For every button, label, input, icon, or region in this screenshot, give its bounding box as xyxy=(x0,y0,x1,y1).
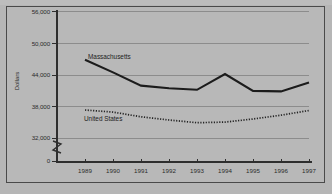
x-tick-label: 1994 xyxy=(218,167,232,174)
gridline xyxy=(57,138,309,139)
x-tick-label: 1993 xyxy=(190,167,204,174)
y-tick-label: 56,000 xyxy=(2,8,50,15)
y-tick-label: 50,000 xyxy=(2,40,50,47)
x-axis-line xyxy=(56,161,312,163)
y-tick-label: 44,000 xyxy=(2,71,50,78)
y-axis-line xyxy=(56,10,58,162)
x-tick-label: 1997 xyxy=(302,167,316,174)
x-tick-mark xyxy=(225,159,226,163)
x-tick-label: 1996 xyxy=(274,167,288,174)
x-tick-mark xyxy=(281,159,282,163)
series-annotation-united-states: United States xyxy=(84,115,122,122)
x-tick-mark xyxy=(113,159,114,163)
gridline xyxy=(57,11,309,12)
y-tick-label: 38,000 xyxy=(2,103,50,110)
gridline xyxy=(57,106,309,107)
x-tick-label: 1990 xyxy=(106,167,120,174)
x-tick-mark xyxy=(253,159,254,163)
x-tick-mark xyxy=(309,159,310,163)
x-tick-mark xyxy=(141,159,142,163)
x-tick-label: 1991 xyxy=(134,167,148,174)
plot-area xyxy=(57,11,309,162)
y-tick-label-zero: 0 xyxy=(2,157,50,164)
x-tick-mark xyxy=(85,159,86,163)
x-tick-label: 1992 xyxy=(162,167,176,174)
series-annotation-massachusetts: Massachusetts xyxy=(88,53,131,60)
chart-figure: 56,000 50,000 44,000 38,000 32,000 0 Dol… xyxy=(0,0,332,194)
x-tick-mark xyxy=(197,159,198,163)
gridline xyxy=(57,75,309,76)
y-axis-title: Dollars xyxy=(14,58,20,104)
gridline xyxy=(57,43,309,44)
x-tick-label: 1995 xyxy=(246,167,260,174)
y-tick-label: 32,000 xyxy=(2,134,50,141)
y-axis-labels: 56,000 50,000 44,000 38,000 32,000 0 xyxy=(0,0,50,194)
x-tick-label: 1989 xyxy=(78,167,92,174)
x-tick-mark xyxy=(169,159,170,163)
